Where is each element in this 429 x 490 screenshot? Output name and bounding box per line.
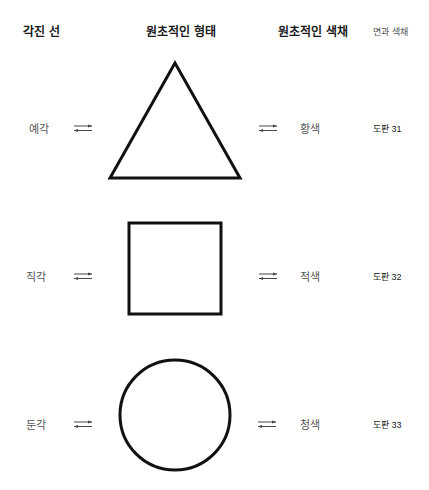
square-shape	[129, 223, 221, 314]
angle-label-acute: 예각	[29, 120, 49, 136]
color-label-blue: 청색	[300, 416, 320, 432]
bidirectional-arrow-icon	[258, 123, 278, 133]
plate-reference-32: 도판 32	[373, 270, 402, 283]
shapes-canvas	[0, 0, 429, 490]
angle-label-right: 직각	[26, 268, 46, 284]
plate-reference-33: 도판 33	[373, 418, 402, 431]
bidirectional-arrow-icon	[73, 419, 93, 429]
triangle-shape	[110, 63, 240, 178]
angle-label-obtuse: 둔각	[26, 416, 46, 432]
bidirectional-arrow-icon	[257, 419, 277, 429]
bidirectional-arrow-icon	[73, 123, 93, 133]
color-label-yellow: 황색	[300, 120, 320, 136]
plate-reference-31: 도판 31	[373, 122, 402, 135]
color-label-red: 적색	[300, 268, 320, 284]
bidirectional-arrow-icon	[73, 271, 93, 281]
bidirectional-arrow-icon	[258, 271, 278, 281]
circle-shape	[120, 360, 230, 470]
